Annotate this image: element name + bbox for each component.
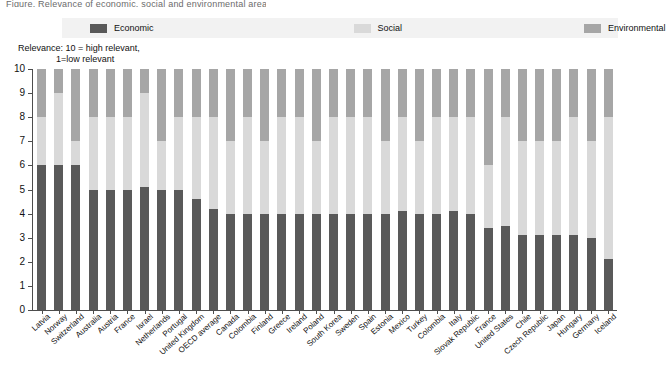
bar-slot[interactable] (445, 69, 462, 310)
bar-slot[interactable] (479, 69, 496, 310)
stacked-bar[interactable] (535, 69, 544, 310)
bar-segment-social[interactable] (260, 141, 269, 213)
bar-segment-economic[interactable] (295, 214, 304, 310)
bar-segment-economic[interactable] (260, 214, 269, 310)
bar-segment-environmental[interactable] (277, 69, 286, 117)
bar-segment-environmental[interactable] (106, 69, 115, 117)
bar-slot[interactable] (239, 69, 256, 310)
bar-segment-environmental[interactable] (312, 69, 321, 141)
bar-segment-social[interactable] (604, 117, 613, 259)
stacked-bar[interactable] (587, 69, 596, 310)
bar-segment-environmental[interactable] (329, 69, 338, 117)
bar-segment-economic[interactable] (552, 235, 561, 310)
bar-slot[interactable] (188, 69, 205, 310)
bar-segment-environmental[interactable] (449, 69, 458, 117)
bar-segment-social[interactable] (587, 141, 596, 237)
bar-slot[interactable] (102, 69, 119, 310)
bar-segment-economic[interactable] (432, 214, 441, 310)
bar-segment-economic[interactable] (604, 259, 613, 310)
bar-segment-environmental[interactable] (415, 69, 424, 141)
bar-segment-economic[interactable] (192, 199, 201, 310)
bar-slot[interactable] (273, 69, 290, 310)
bar-segment-economic[interactable] (587, 238, 596, 310)
stacked-bar[interactable] (398, 69, 407, 310)
stacked-bar[interactable] (54, 69, 63, 310)
bar-slot[interactable] (394, 69, 411, 310)
bar-segment-environmental[interactable] (71, 69, 80, 141)
bar-segment-environmental[interactable] (535, 69, 544, 141)
bar-slot[interactable] (50, 69, 67, 310)
bar-slot[interactable] (33, 69, 50, 310)
bar-segment-social[interactable] (295, 117, 304, 213)
bar-segment-environmental[interactable] (209, 69, 218, 117)
bar-slot[interactable] (462, 69, 479, 310)
bar-segment-economic[interactable] (535, 235, 544, 310)
bar-segment-environmental[interactable] (363, 69, 372, 117)
bar-segment-environmental[interactable] (157, 69, 166, 141)
bar-slot[interactable] (411, 69, 428, 310)
bar-segment-environmental[interactable] (518, 69, 527, 141)
bar-segment-social[interactable] (363, 117, 372, 213)
bar-segment-social[interactable] (54, 93, 63, 165)
bar-slot[interactable] (222, 69, 239, 310)
bar-segment-social[interactable] (432, 117, 441, 213)
bar-slot[interactable] (376, 69, 393, 310)
bar-segment-social[interactable] (398, 117, 407, 211)
bar-segment-economic[interactable] (277, 214, 286, 310)
bar-slot[interactable] (342, 69, 359, 310)
bar-segment-social[interactable] (535, 141, 544, 235)
bar-segment-economic[interactable] (449, 211, 458, 310)
bar-slot[interactable] (153, 69, 170, 310)
bar-segment-economic[interactable] (484, 228, 493, 310)
bar-segment-social[interactable] (123, 117, 132, 189)
stacked-bar[interactable] (312, 69, 321, 310)
bar-segment-economic[interactable] (140, 187, 149, 310)
stacked-bar[interactable] (466, 69, 475, 310)
bar-segment-social[interactable] (226, 141, 235, 213)
bar-segment-economic[interactable] (209, 209, 218, 310)
bar-segment-economic[interactable] (518, 235, 527, 310)
bar-segment-environmental[interactable] (89, 69, 98, 117)
bar-segment-social[interactable] (569, 117, 578, 235)
stacked-bar[interactable] (552, 69, 561, 310)
stacked-bar[interactable] (106, 69, 115, 310)
bar-segment-social[interactable] (277, 117, 286, 213)
bar-segment-environmental[interactable] (604, 69, 613, 117)
bar-slot[interactable] (256, 69, 273, 310)
bar-segment-environmental[interactable] (501, 69, 510, 117)
bar-segment-economic[interactable] (363, 214, 372, 310)
bar-segment-social[interactable] (415, 141, 424, 213)
bar-segment-economic[interactable] (174, 190, 183, 311)
bar-segment-environmental[interactable] (398, 69, 407, 117)
bar-segment-social[interactable] (466, 117, 475, 213)
bar-segment-environmental[interactable] (174, 69, 183, 117)
bar-segment-social[interactable] (89, 117, 98, 189)
bar-slot[interactable] (497, 69, 514, 310)
bar-segment-social[interactable] (552, 141, 561, 235)
bar-segment-environmental[interactable] (432, 69, 441, 117)
bar-segment-social[interactable] (518, 141, 527, 235)
bar-segment-environmental[interactable] (192, 69, 201, 117)
stacked-bar[interactable] (484, 69, 493, 310)
bar-segment-social[interactable] (329, 117, 338, 213)
stacked-bar[interactable] (518, 69, 527, 310)
bar-segment-environmental[interactable] (295, 69, 304, 117)
bar-segment-social[interactable] (381, 141, 390, 213)
bar-slot[interactable] (359, 69, 376, 310)
stacked-bar[interactable] (89, 69, 98, 310)
stacked-bar[interactable] (226, 69, 235, 310)
bar-slot[interactable] (565, 69, 582, 310)
stacked-bar[interactable] (295, 69, 304, 310)
bar-slot[interactable] (170, 69, 187, 310)
bar-segment-environmental[interactable] (260, 69, 269, 141)
stacked-bar[interactable] (432, 69, 441, 310)
bar-segment-environmental[interactable] (37, 69, 46, 117)
bar-segment-social[interactable] (346, 117, 355, 213)
bar-slot[interactable] (583, 69, 600, 310)
bar-segment-environmental[interactable] (569, 69, 578, 117)
bar-slot[interactable] (291, 69, 308, 310)
bar-segment-economic[interactable] (37, 165, 46, 310)
bar-segment-social[interactable] (243, 117, 252, 213)
bar-slot[interactable] (136, 69, 153, 310)
bar-segment-environmental[interactable] (552, 69, 561, 141)
